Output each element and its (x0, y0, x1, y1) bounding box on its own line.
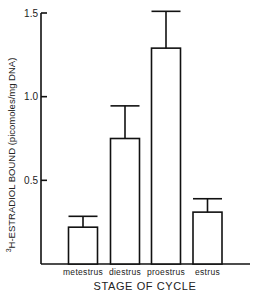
bar-metestrus (69, 227, 98, 264)
category-label-diestrus: diestrus (109, 267, 141, 277)
y-axis-label-text: H-ESTRADIOL BOUND (picomoles/mg DNA) (6, 58, 17, 249)
category-label-estrus: estrus (195, 267, 220, 277)
category-label-proestrus: proestrus (147, 267, 185, 277)
bar-diestrus (111, 139, 140, 265)
bar-proestrus (152, 48, 181, 264)
category-label-metestrus: metestrus (63, 267, 103, 277)
bar-chart: 0.51.01.5 metestrusdiestrusproestrusestr… (0, 0, 256, 296)
category-labels: metestrusdiestrusproestrusestrus (63, 267, 220, 277)
y-axis-label: 3H-ESTRADIOL BOUND (picomoles/mg DNA) (5, 58, 17, 253)
y-tick-label: 1.0 (24, 91, 38, 102)
y-tick-label: 1.5 (24, 8, 38, 19)
bars (69, 11, 223, 264)
x-axis-label: STAGE OF CYCLE (94, 280, 197, 292)
y-tick-label: 0.5 (24, 175, 38, 186)
y-ticks: 0.51.01.5 (24, 8, 47, 186)
bar-estrus (193, 212, 222, 264)
